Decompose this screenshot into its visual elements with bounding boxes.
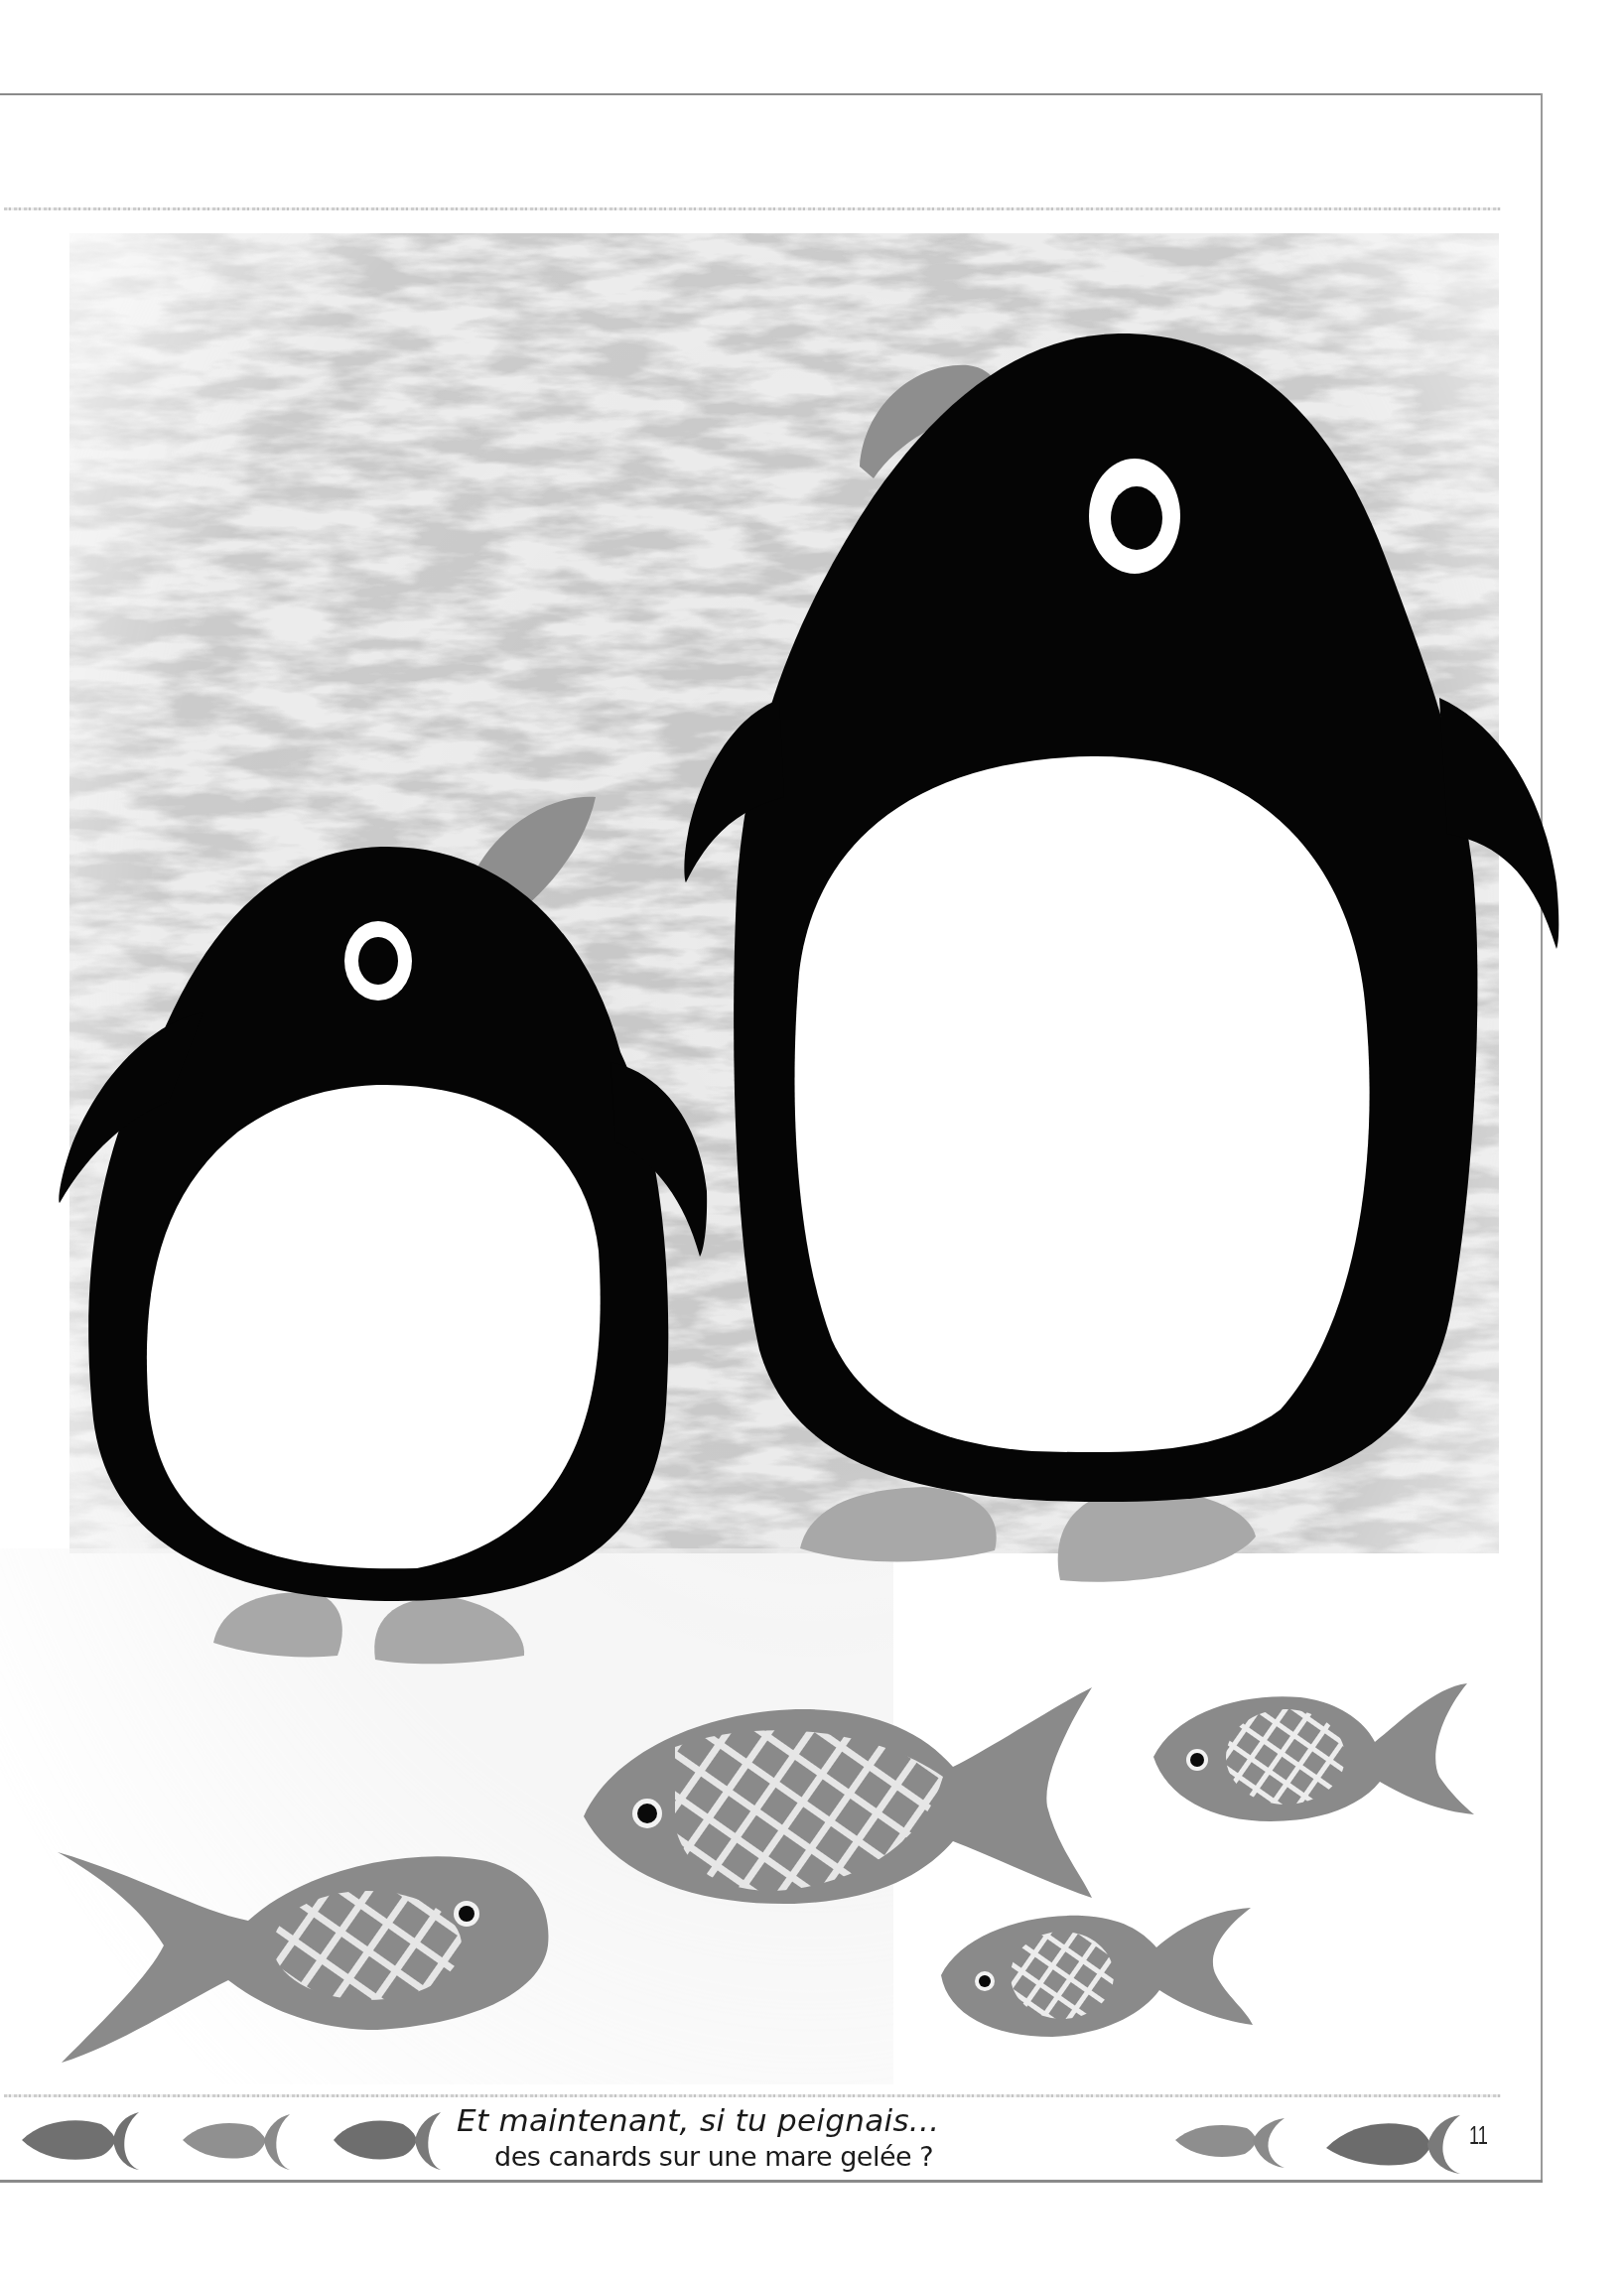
small-penguin-pupil [358,937,398,985]
big-penguin-pupil [1111,486,1162,550]
footer-fish-icon [22,2112,139,2170]
page-number: 11 [1469,2120,1488,2151]
fish-upper-right [1153,1683,1474,1821]
footer-fish-icon [1175,2118,1285,2168]
fish-lower-right-small [941,1908,1253,2037]
small-penguin-belly [147,1085,601,1568]
footer-fish-icon [183,2114,290,2170]
big-penguin-belly [795,756,1370,1452]
footer-fish-icon [334,2112,441,2170]
illustration [0,0,1624,2275]
footer-fish-icon [1326,2115,1460,2174]
caption-line-2: des canards sur une mare gelée ? [494,2141,933,2172]
caption-line-1: Et maintenant, si tu peignais... [457,2102,939,2138]
